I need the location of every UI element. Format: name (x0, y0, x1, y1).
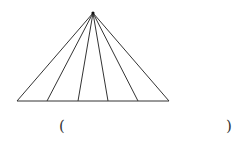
fan-line-0 (17, 13, 93, 101)
fan-lines (17, 13, 169, 101)
answer-paren-close: ) (226, 119, 232, 134)
apex-point (91, 11, 94, 14)
answer-paren-open: ( (59, 119, 65, 134)
fan-line-2 (78, 13, 93, 101)
triangle-figure (0, 0, 247, 151)
fan-line-3 (93, 13, 108, 101)
fan-line-1 (47, 13, 93, 101)
